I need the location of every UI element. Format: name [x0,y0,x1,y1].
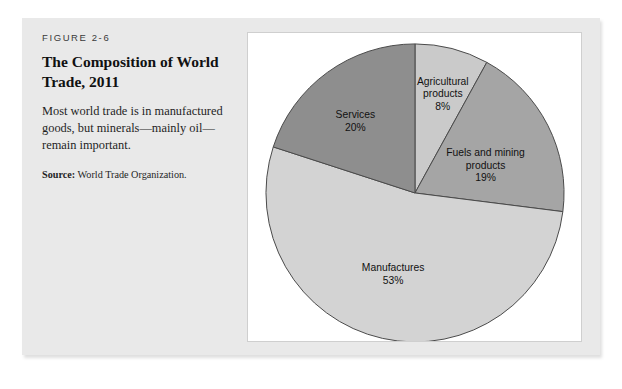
pie-slices [266,44,564,341]
chart-panel: Agriculturalproducts8%Fuels and miningpr… [247,32,582,342]
figure-text-column: FIGURE 2-6 The Composition of World Trad… [42,32,234,182]
figure-caption: Most world trade is in manufactured good… [42,103,234,154]
figure-number: FIGURE 2-6 [42,32,234,43]
figure-panel: FIGURE 2-6 The Composition of World Trad… [22,18,600,355]
source-text: World Trade Organization. [75,169,186,180]
pie-chart: Agriculturalproducts8%Fuels and miningpr… [248,33,581,341]
page-title: The Composition of World Trade, 2011 [42,52,234,92]
source-label: Source: [42,169,75,180]
figure-source: Source: World Trade Organization. [42,168,234,182]
